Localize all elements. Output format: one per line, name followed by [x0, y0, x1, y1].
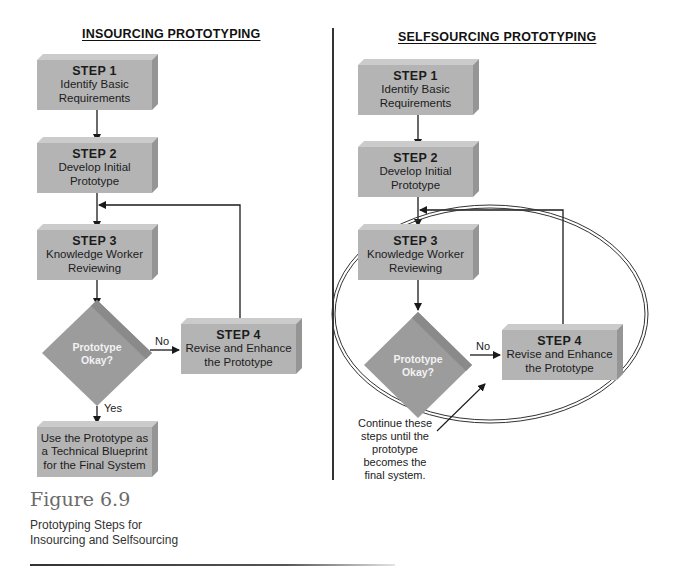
- insourcing-decision-text: Prototype Okay?: [57, 341, 137, 367]
- step-text: Prototype: [70, 175, 119, 189]
- insourcing-yes-label: Yes: [104, 402, 122, 414]
- step-label: STEP 3: [72, 235, 117, 249]
- figure-number: Figure 6.9: [30, 488, 130, 510]
- step-text: Revise and Enhance: [185, 342, 291, 356]
- bottom-rule: [30, 564, 395, 566]
- final-text: a Technical Blueprint: [42, 445, 148, 459]
- insourcing-step-3-box: STEP 3 Knowledge Worker Reviewing: [37, 224, 158, 280]
- step-text: Develop Initial: [58, 161, 130, 175]
- step-label: STEP 1: [72, 65, 117, 79]
- step-text: Reviewing: [389, 262, 442, 276]
- step-text: Identify Basic: [60, 78, 128, 92]
- step-text: Revise and Enhance: [506, 348, 612, 362]
- figure-caption: Prototyping Steps for Insourcing and Sel…: [30, 518, 178, 548]
- selfsourcing-step-4-box: STEP 4 Revise and Enhance the Prototype: [502, 324, 623, 380]
- step-text: Requirements: [380, 97, 452, 111]
- continue-note: Continue these steps until the prototype…: [350, 417, 440, 482]
- selfsourcing-step-3-box: STEP 3 Knowledge Worker Reviewing: [358, 224, 479, 280]
- insourcing-step-1-box: STEP 1 Identify Basic Requirements: [37, 54, 158, 110]
- step-label: STEP 4: [537, 335, 582, 349]
- step-text: the Prototype: [204, 356, 272, 370]
- insourcing-step-4-box: STEP 4 Revise and Enhance the Prototype: [181, 318, 302, 374]
- step-text: Knowledge Worker: [46, 248, 143, 262]
- insourcing-step-2-box: STEP 2 Develop Initial Prototype: [37, 137, 158, 193]
- step-label: STEP 2: [72, 148, 117, 162]
- step-text: Prototype: [391, 179, 440, 193]
- step-text: Reviewing: [68, 262, 121, 276]
- step-text: the Prototype: [525, 362, 593, 376]
- step-label: STEP 4: [216, 329, 261, 343]
- selfsourcing-step-2-box: STEP 2 Develop Initial Prototype: [358, 141, 479, 197]
- step-text: Knowledge Worker: [367, 248, 464, 262]
- step-label: STEP 3: [393, 235, 438, 249]
- insourcing-no-label: No: [155, 335, 169, 347]
- selfsourcing-decision-text: Prototype Okay?: [378, 353, 458, 379]
- step-label: STEP 1: [393, 70, 438, 84]
- step-text: Requirements: [59, 92, 131, 106]
- final-text: Use the Prototype as: [41, 432, 148, 446]
- selfsourcing-no-label: No: [476, 340, 490, 352]
- step-text: Develop Initial: [379, 165, 451, 179]
- final-text: for the Final System: [43, 459, 145, 473]
- step-text: Identify Basic: [381, 83, 449, 97]
- selfsourcing-step-1-box: STEP 1 Identify Basic Requirements: [358, 59, 479, 115]
- insourcing-final-box: Use the Prototype as a Technical Bluepri…: [37, 421, 158, 477]
- step-label: STEP 2: [393, 152, 438, 166]
